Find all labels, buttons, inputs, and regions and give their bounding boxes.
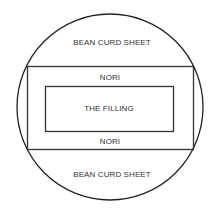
bottom-bean-curd-sheet-label: BEAN CURD SHEET (73, 170, 151, 179)
filling-label: THE FILLING (84, 104, 134, 113)
top-nori-label: NORI (100, 73, 120, 82)
bottom-nori-label: NORI (100, 137, 120, 146)
top-bean-curd-sheet-label: BEAN CURD SHEET (73, 38, 151, 47)
